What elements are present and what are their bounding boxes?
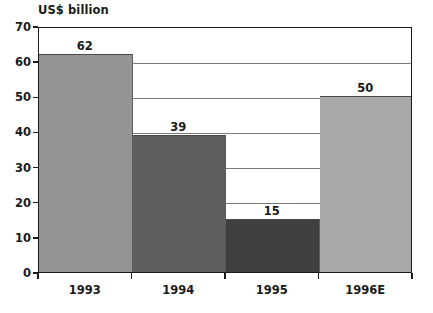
y-axis-tick-label: 40 [5, 126, 31, 138]
plot-inner [39, 28, 411, 272]
y-axis-tick-label: 30 [5, 162, 31, 174]
y-axis-tick-label: 10 [5, 232, 31, 244]
bars [39, 28, 411, 272]
x-axis-tick [411, 273, 413, 279]
y-axis-tick [33, 132, 38, 134]
x-axis-label-1993: 1993 [38, 283, 132, 297]
y-axis-tick [33, 26, 38, 28]
bar-value-label: 15 [225, 205, 319, 218]
x-axis-label-1995: 1995 [225, 283, 319, 297]
bar-value-label: 62 [38, 40, 132, 53]
bar-chart: US$ billion 010203040506070 62391550 199… [0, 0, 433, 313]
bar-1995[interactable] [226, 219, 320, 272]
y-axis-tick-label: 0 [5, 267, 31, 279]
x-axis-label-1996E: 1996E [319, 283, 413, 297]
y-axis-tick [33, 61, 38, 63]
y-axis-title: US$ billion [38, 3, 109, 17]
plot-area [38, 27, 412, 273]
y-axis-tick [33, 272, 38, 274]
bar-value-label: 50 [319, 82, 413, 95]
bar-value-label: 39 [132, 121, 226, 134]
bar-1994[interactable] [133, 135, 227, 272]
x-axis-tick [318, 273, 320, 279]
x-axis-tick [224, 273, 226, 279]
y-axis-tick-label: 70 [5, 21, 31, 33]
y-axis-labels: 010203040506070 [0, 0, 31, 313]
x-axis-tick [37, 273, 39, 279]
y-axis-tick [33, 202, 38, 204]
y-axis-tick-label: 50 [5, 91, 31, 103]
y-axis-tick [33, 237, 38, 239]
bar-1993[interactable] [39, 54, 133, 272]
y-axis-tick [33, 97, 38, 99]
y-axis-tick-label: 60 [5, 56, 31, 68]
y-axis-tick-label: 20 [5, 197, 31, 209]
y-axis-tick [33, 167, 38, 169]
bar-1996E[interactable] [320, 96, 412, 272]
x-axis-tick [131, 273, 133, 279]
x-axis-label-1994: 1994 [132, 283, 226, 297]
